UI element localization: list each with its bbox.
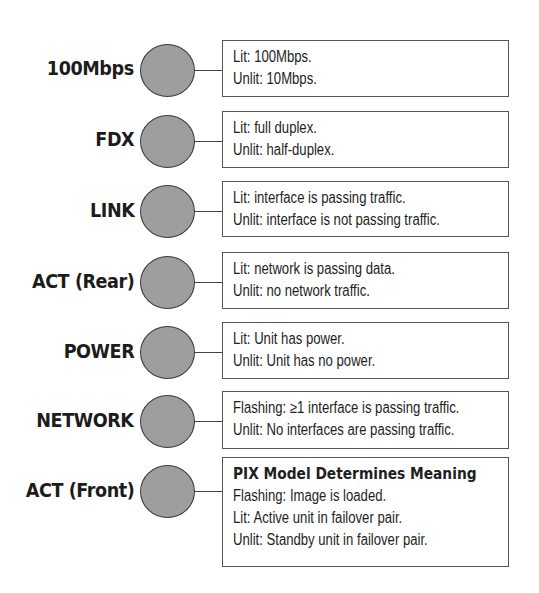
indicator-label: NETWORK [37,408,134,432]
description-line: Unlit: interface is not passing traffic. [233,209,459,231]
description-line: Lit: 100Mbps. [233,46,459,68]
description-line: Unlit: No interfaces are passing traffic… [233,419,459,441]
connector-line [195,70,222,71]
connector-line [195,491,222,492]
led-icon [140,395,195,448]
indicator-label: FDX [95,127,134,151]
description-box: Lit: full duplex. Unlit: half-duplex. [222,111,509,168]
description-title: PIX Model Determines Meaning [233,463,470,485]
description-box: Lit: 100Mbps. Unlit: 10Mbps. [222,40,509,97]
description-box: Flashing: ≥1 interface is passing traffi… [222,391,509,449]
description-box: Lit: interface is passing traffic. Unlit… [222,181,509,237]
description-line: Unlit: Unit has no power. [233,350,459,372]
description-box: Lit: Unit has power. Unlit: Unit has no … [222,322,509,379]
led-icon [140,115,195,168]
led-icon [140,185,195,238]
indicator-label: ACT (Front) [25,478,134,502]
led-icon [140,256,195,309]
description-line: Unlit: 10Mbps. [233,68,459,90]
description-line: Flashing: Image is loaded. [233,485,459,507]
connector-line [195,211,222,212]
description-line: Lit: network is passing data. [233,258,459,280]
indicator-label: POWER [63,339,134,363]
description-line: Lit: Active unit in failover pair. [233,507,459,529]
description-line: Unlit: no network traffic. [233,280,459,302]
description-box: Lit: network is passing data. Unlit: no … [222,252,509,309]
led-icon [140,326,195,379]
indicator-label: LINK [90,198,134,222]
description-line: Flashing: ≥1 interface is passing traffi… [233,397,459,419]
connector-line [195,352,222,353]
indicator-label: 100Mbps [47,56,134,80]
description-box: PIX Model Determines Meaning Flashing: I… [222,457,509,567]
description-line: Unlit: Standby unit in failover pair. [233,529,459,551]
description-line: Lit: Unit has power. [233,328,459,350]
led-icon [140,465,195,518]
connector-line [195,141,222,142]
indicator-label: ACT (Rear) [32,269,134,293]
description-line: Lit: interface is passing traffic. [233,187,459,209]
led-icon [140,44,195,97]
description-line: Unlit: half-duplex. [233,139,459,161]
description-line: Lit: full duplex. [233,117,459,139]
connector-line [195,421,222,422]
connector-line [195,282,222,283]
